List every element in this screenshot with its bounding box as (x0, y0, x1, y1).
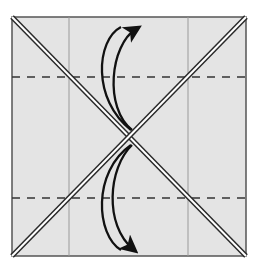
fold-diagram (0, 0, 259, 270)
